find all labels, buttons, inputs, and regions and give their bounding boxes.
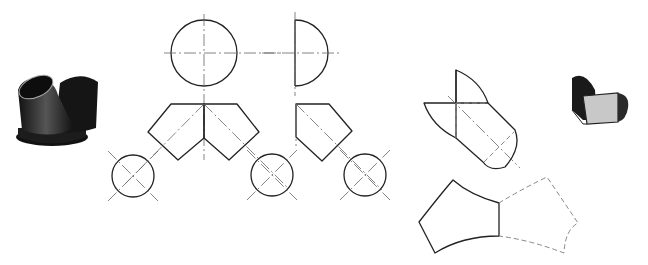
branch-end-circles xyxy=(108,150,390,201)
front-view-branches xyxy=(124,104,288,188)
body-development xyxy=(419,177,578,253)
branch-development xyxy=(424,70,520,169)
technical-drawing xyxy=(0,0,648,265)
half-circle-view xyxy=(262,12,342,96)
y-branch-photo xyxy=(15,70,98,146)
side-view-branch xyxy=(296,104,382,190)
branch-piece-photo xyxy=(572,76,628,124)
top-circle-view xyxy=(164,14,282,160)
